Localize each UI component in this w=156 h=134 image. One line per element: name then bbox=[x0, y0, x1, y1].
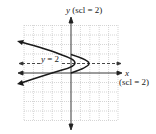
arrow-upper-branch bbox=[17, 40, 24, 45]
x-scale-label: (scl = 2) bbox=[119, 78, 149, 87]
y-axis bbox=[69, 17, 73, 130]
arrow-lower-branch bbox=[17, 80, 24, 86]
coordinate-plane bbox=[0, 0, 156, 134]
y-axis-label: y (scl = 2) bbox=[66, 6, 102, 15]
line-label: y = 2 bbox=[40, 55, 60, 64]
axis-of-symmetry-y-2 bbox=[19, 62, 121, 65]
